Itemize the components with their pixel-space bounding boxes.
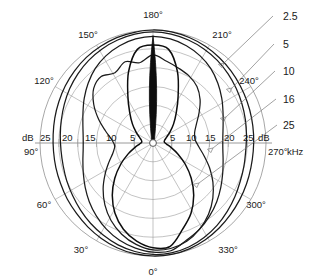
leader-arrow-25 <box>194 183 200 188</box>
angle-label-150: 150° <box>78 29 98 40</box>
db-tick-right-15: 15 <box>205 132 216 143</box>
angle-label-270: 270° <box>268 146 288 157</box>
radial-axis-labels: dB 25 20 15 10 5 5 10 15 20 25 dB kHz <box>22 132 304 157</box>
legend-label-16: 16 <box>283 93 295 105</box>
polar-plot-svg: 180° 0° 150° 210° 120° 240° 90° 270° 60°… <box>0 0 321 280</box>
angle-label-0: 0° <box>148 266 157 277</box>
db-tick-right-10: 10 <box>186 132 197 143</box>
db-tick-right-20: 20 <box>224 132 235 143</box>
db-tick-left-20: 20 <box>62 132 73 143</box>
db-tick-right-25: 25 <box>243 132 254 143</box>
frequency-legend: 2.5 5 10 16 25 <box>283 10 298 131</box>
leader-arrow-5 <box>227 88 233 93</box>
legend-label-5: 5 <box>283 38 289 50</box>
db-label-right: dB <box>258 132 270 143</box>
spoke-210 <box>153 45 210 143</box>
origin-hub <box>150 140 157 147</box>
angle-label-210: 210° <box>212 29 232 40</box>
db-tick-left-25: 25 <box>40 132 51 143</box>
angle-label-120: 120° <box>34 75 54 86</box>
legend-label-25: 25 <box>283 119 295 131</box>
legend-label-10: 10 <box>283 65 295 77</box>
db-tick-right-5: 5 <box>170 132 175 143</box>
angle-label-330: 330° <box>218 244 238 255</box>
leader-arrow-16 <box>208 148 214 153</box>
db-tick-left-10: 10 <box>106 132 117 143</box>
db-label-left: dB <box>22 132 34 143</box>
db-tick-left-15: 15 <box>85 132 96 143</box>
khz-unit-label: kHz <box>287 146 304 157</box>
angle-label-300: 300° <box>246 199 266 210</box>
spoke-60 <box>55 143 153 200</box>
polar-directivity-chart: 180° 0° 150° 210° 120° 240° 90° 270° 60°… <box>0 0 321 280</box>
angle-label-60: 60° <box>37 199 52 210</box>
angle-label-240: 240° <box>239 75 259 86</box>
angle-label-90: 90° <box>24 146 39 157</box>
angle-label-30: 30° <box>74 244 89 255</box>
angle-label-180: 180° <box>143 9 163 20</box>
trace-25khz-main-beam <box>149 36 156 143</box>
legend-label-2.5: 2.5 <box>283 10 298 22</box>
db-tick-left-5: 5 <box>130 132 135 143</box>
